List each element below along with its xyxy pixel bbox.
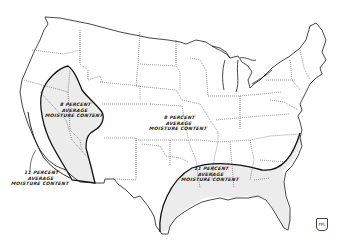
zone-label-west-interior: 8 PERCENT AVERAGE MOISTURE CONTENT (45, 102, 105, 119)
label-line: MOISTURE CONTENT (149, 126, 208, 132)
label-line: MOISTURE CONTENT (181, 177, 240, 183)
label-line: MOISTURE CONTENT (11, 181, 70, 187)
zone-label-central: 8 PERCENT AVERAGE MOISTURE CONTENT (149, 115, 209, 132)
zone-label-gulf-southeast: 11 PERCENT AVERAGE MOISTURE CONTENT (181, 166, 241, 183)
zone-label-pacific-coast: 11 PERCENT AVERAGE MOISTURE CONTENT (11, 170, 71, 187)
publisher-logo-icon: FPL (316, 218, 328, 231)
leader-line (30, 150, 36, 172)
zone-west-interior-shade (41, 66, 103, 183)
great-lakes (212, 46, 272, 92)
label-line: MOISTURE CONTENT (45, 113, 104, 119)
